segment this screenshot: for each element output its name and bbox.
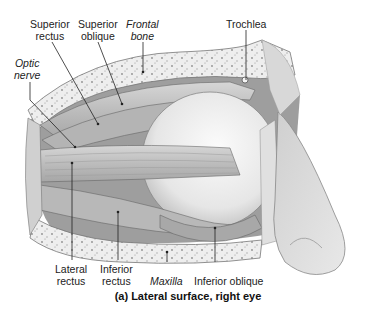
label-optic-nerve: Optic nerve [14,57,40,81]
label-frontal-bone: Frontal bone [126,18,159,42]
label-superior-rectus: Superior rectus [30,18,70,42]
optic-nerve-sheath [25,118,42,235]
label-trochlea: Trochlea [226,18,266,30]
label-inferior-oblique: Inferior oblique [194,275,263,287]
trochlea-structure [242,77,248,83]
label-lateral-rectus: Lateral rectus [55,263,87,287]
figure-caption: (a) Lateral surface, right eye [0,290,376,302]
label-maxilla: Maxilla [150,275,183,287]
label-inferior-rectus: Inferior rectus [100,263,133,287]
lateral-rectus-muscle [40,145,240,182]
eye-muscle-diagram: Superior rectus Superior oblique Frontal… [0,0,376,313]
label-superior-oblique: Superior oblique [78,18,118,42]
nose [274,112,345,275]
